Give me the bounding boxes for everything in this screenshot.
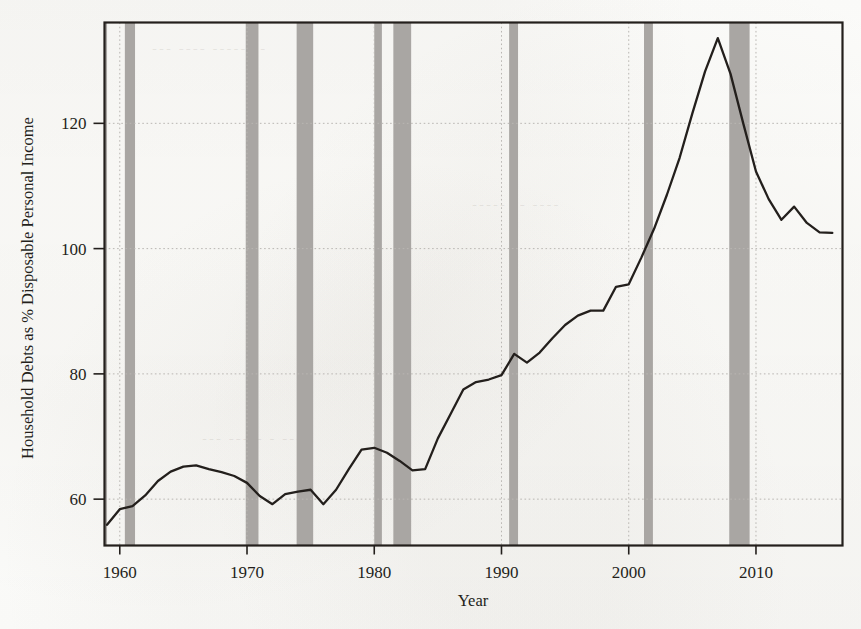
recession-band (644, 23, 653, 546)
recession-band (509, 23, 518, 546)
x-tick-label: 2000 (612, 563, 646, 582)
recession-band (125, 23, 135, 546)
recession-band (729, 23, 749, 546)
line-chart-svg: 196019701980199020002010 6080100120 Year… (0, 0, 861, 629)
debt-ratio-line (107, 38, 832, 525)
y-axis-label: Household Debts as % Disposable Personal… (18, 117, 37, 459)
y-tick-label: 120 (61, 114, 87, 133)
y-tick-label: 100 (61, 240, 87, 259)
chart-figure: 196019701980199020002010 6080100120 Year… (0, 0, 861, 629)
x-tick-label: 1980 (357, 563, 391, 582)
recession-band (246, 23, 259, 546)
recession-band (297, 23, 314, 546)
y-tick-labels-group: 6080100120 (61, 114, 87, 509)
recession-band (374, 23, 382, 546)
x-tick-label: 1960 (103, 563, 137, 582)
x-tick-label: 2010 (739, 563, 773, 582)
y-tick-label: 80 (70, 365, 87, 384)
x-axis-label: Year (458, 591, 489, 610)
x-tick-label: 1970 (230, 563, 264, 582)
y-tick-label: 60 (70, 490, 87, 509)
axis-ticks-group (94, 123, 756, 554)
x-tick-labels-group: 196019701980199020002010 (103, 563, 773, 582)
x-tick-label: 1990 (484, 563, 518, 582)
